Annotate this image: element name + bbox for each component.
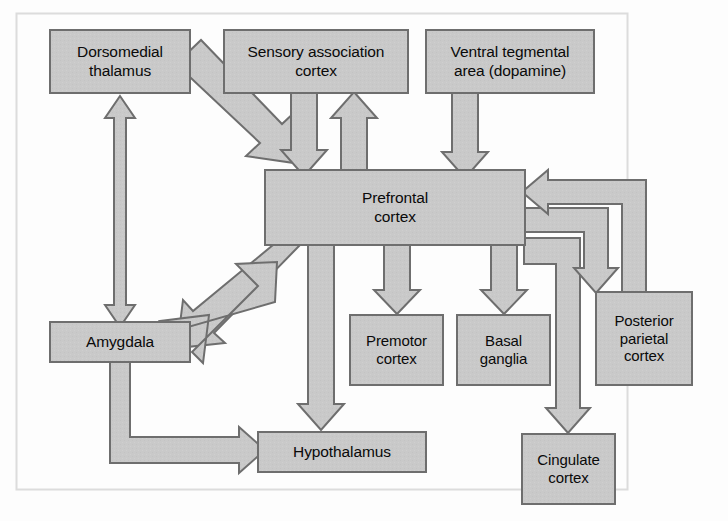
node-dorsomedial-thalamus[interactable] xyxy=(50,30,190,93)
node-hypothalamus[interactable] xyxy=(258,432,426,472)
node-amygdala[interactable] xyxy=(50,322,190,362)
node-basal-ganglia[interactable] xyxy=(457,315,550,385)
diagram-svg xyxy=(0,0,728,521)
node-premotor-cortex[interactable] xyxy=(350,315,443,385)
node-cingulate-cortex[interactable] xyxy=(522,434,615,504)
arrow-prefrontal-to-premotor xyxy=(374,243,420,314)
node-sensory-association-cortex[interactable] xyxy=(224,30,408,93)
node-posterior-parietal-cortex[interactable] xyxy=(596,292,692,385)
node-prefrontal-cortex[interactable] xyxy=(265,170,525,245)
arrow-prefrontal-to-amygdala xyxy=(177,245,300,348)
arrow-amygdala-to-hypothalamus xyxy=(110,360,265,473)
node-ventral-tegmental-area[interactable] xyxy=(426,30,594,93)
diagram-canvas: Dorsomedial thalamus Sensory association… xyxy=(0,0,728,521)
arrow-prefrontal-to-basal-ganglia xyxy=(481,243,527,314)
arrow-prefrontal-to-sensory xyxy=(331,92,377,178)
arrow-thalamus-amygdala-bidirectional xyxy=(105,96,135,327)
arrow-prefrontal-to-hypothalamus xyxy=(298,243,344,430)
arrow-vta-to-prefrontal xyxy=(442,90,488,178)
